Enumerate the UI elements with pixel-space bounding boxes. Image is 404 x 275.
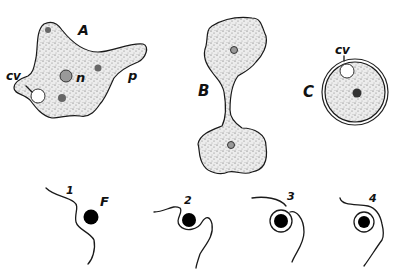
label-a-p: p bbox=[127, 68, 137, 83]
nucleus-icon bbox=[228, 142, 235, 149]
food-vacuole-icon bbox=[45, 27, 51, 33]
nucleus-icon bbox=[231, 47, 238, 54]
feeding-stage-2: 2 bbox=[154, 194, 212, 268]
label-c-cv: cv bbox=[335, 43, 351, 57]
food-particle-icon bbox=[274, 214, 288, 228]
label-a: A bbox=[77, 22, 89, 38]
label-b: B bbox=[198, 82, 209, 100]
label-stage-4: 4 bbox=[368, 192, 377, 205]
label-stage-1: 1 bbox=[66, 184, 74, 197]
feeding-stage-4: 4 bbox=[340, 192, 384, 266]
feeding-stage-1: 1 F bbox=[46, 184, 109, 264]
amoeba-b: B bbox=[198, 17, 266, 173]
nucleus-icon bbox=[353, 89, 362, 98]
label-c: C bbox=[303, 83, 314, 101]
label-stage-3: 3 bbox=[287, 190, 295, 203]
label-a-cv: cv bbox=[6, 69, 22, 83]
amoeba-a: A cv n p bbox=[6, 22, 147, 118]
amoeba-c: C cv bbox=[303, 43, 388, 125]
label-stage-2: 2 bbox=[184, 194, 192, 207]
amoeba-figure: A cv n p B C cv 1 F 2 3 bbox=[0, 0, 404, 275]
food-particle-icon bbox=[84, 210, 99, 225]
food-vacuole-icon bbox=[95, 65, 102, 72]
label-a-n: n bbox=[76, 70, 85, 85]
contractile-vacuole-icon bbox=[31, 89, 45, 103]
nucleus-icon bbox=[60, 70, 72, 82]
food-particle-icon bbox=[358, 216, 370, 228]
label-food: F bbox=[100, 194, 109, 209]
feeding-stage-3: 3 bbox=[252, 190, 304, 262]
contractile-vacuole-icon bbox=[340, 64, 354, 78]
food-vacuole-icon bbox=[58, 94, 66, 102]
food-particle-icon bbox=[182, 213, 196, 227]
